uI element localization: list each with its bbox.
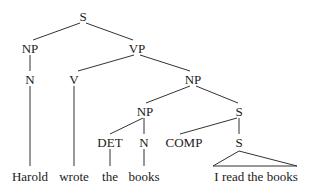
node-np-inner: NP — [137, 104, 154, 119]
node-s-embedded: S — [235, 135, 242, 150]
edge-np-s — [196, 86, 238, 103]
node-n-object: N — [139, 135, 149, 150]
nodes: S NP VP N V NP NP S DET N COMP S — [22, 9, 243, 150]
edge-s-np — [33, 23, 80, 40]
leaf-books: books — [128, 169, 159, 184]
leaves: Harold wrote the books I read the books — [12, 169, 298, 184]
node-np-subject: NP — [22, 41, 39, 56]
edges — [30, 23, 297, 166]
node-s-relative: S — [235, 104, 242, 119]
leaf-clause: I read the books — [214, 169, 297, 184]
edge-s-vp — [86, 23, 133, 40]
node-det: DET — [97, 135, 122, 150]
syntax-tree-diagram: S NP VP N V NP NP S DET N COMP S Harold … — [0, 0, 314, 190]
edge-vp-np — [140, 55, 190, 71]
triangle-clause — [213, 151, 297, 166]
node-n-subject: N — [25, 72, 35, 87]
edge-s-comp — [180, 118, 237, 134]
edge-vp-v — [78, 55, 134, 71]
node-s-root: S — [79, 9, 86, 24]
node-np-object: NP — [185, 72, 202, 87]
node-v: V — [69, 72, 79, 87]
edge-np-det — [110, 118, 143, 134]
leaf-harold: Harold — [12, 169, 49, 184]
node-vp: VP — [129, 41, 146, 56]
node-comp: COMP — [166, 135, 203, 150]
edge-np-np — [146, 86, 190, 103]
leaf-the: the — [102, 169, 118, 184]
leaf-wrote: wrote — [59, 169, 89, 184]
